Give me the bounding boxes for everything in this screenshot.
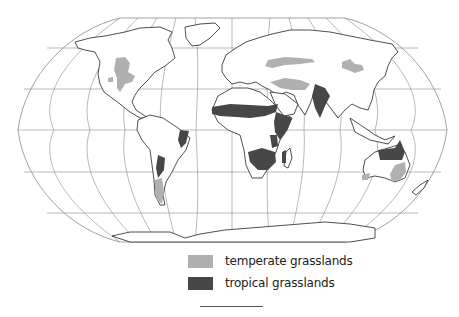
divider xyxy=(200,306,263,307)
legend-label: temperate grasslands xyxy=(225,254,353,268)
greenland xyxy=(185,23,220,46)
tropical-swatch xyxy=(188,277,213,290)
legend-label: tropical grasslands xyxy=(225,276,335,290)
legend: temperate grasslands tropical grasslands xyxy=(188,250,353,294)
antarctica xyxy=(112,222,375,242)
indonesia xyxy=(350,118,395,144)
legend-item-tropical: tropical grasslands xyxy=(188,272,353,294)
legend-item-temperate: temperate grasslands xyxy=(188,250,353,272)
continent-outlines xyxy=(75,23,428,242)
temperate-swatch xyxy=(188,255,213,268)
world-map xyxy=(0,0,459,245)
